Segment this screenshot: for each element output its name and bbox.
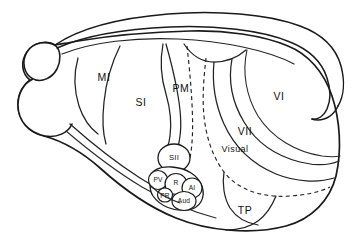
area-label-pr: PR [160, 192, 170, 199]
area-label-ai: AI [189, 184, 196, 191]
area-label-visual: Visual [222, 144, 249, 154]
area-label-sii: SII [169, 153, 179, 162]
area-label-tp: TP [238, 204, 253, 216]
area-label-pm: PM [173, 82, 190, 94]
area-label-pv: PV [153, 176, 163, 183]
area-label-si: SI [135, 96, 146, 108]
brain-diagram-figure: MI SI PM VI VII Visual SII PV R AI PR Au… [0, 0, 352, 248]
area-label-r: R [174, 179, 179, 186]
area-label-mi: MI [98, 71, 111, 83]
area-label-vi: VI [273, 90, 284, 102]
cortical-map-svg: MI SI PM VI VII Visual SII PV R AI PR Au… [0, 0, 352, 248]
area-label-aud: Aud [178, 197, 190, 204]
area-label-vii: VII [238, 125, 253, 137]
